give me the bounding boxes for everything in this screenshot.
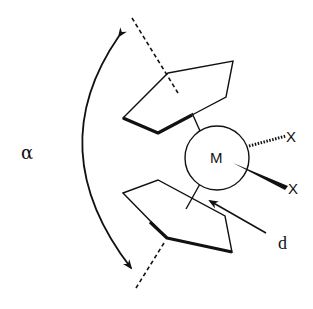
x-ligand-top: X bbox=[286, 129, 296, 144]
diagram-drawing bbox=[0, 0, 313, 309]
metal-label: M bbox=[210, 150, 223, 165]
upper-centroid-bond bbox=[192, 113, 200, 131]
lower-ring-axis bbox=[136, 243, 164, 288]
distance-arrow bbox=[210, 201, 266, 233]
distance-label: d bbox=[278, 234, 287, 252]
angle-label: α bbox=[21, 144, 33, 162]
metallocene-diagram: α M X X d bbox=[0, 0, 313, 309]
hashed-bond bbox=[249, 136, 286, 146]
angle-arc bbox=[82, 36, 131, 268]
x-ligand-bottom: X bbox=[288, 181, 298, 196]
upper-ring-axis bbox=[132, 18, 178, 93]
